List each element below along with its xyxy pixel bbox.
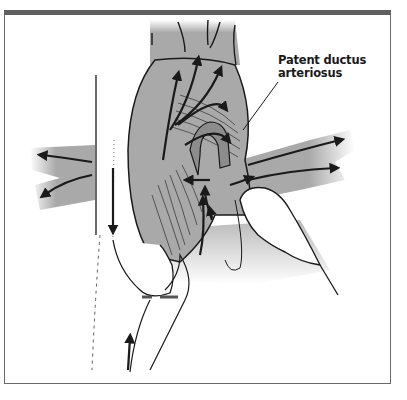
- ivc-outline-right: [130, 300, 150, 372]
- pda-diagram: Patent ductus arteriosus: [0, 0, 407, 400]
- cropped-caption: [190, 392, 390, 400]
- ivc-outline: [92, 235, 100, 370]
- pda-label-line2: arteriosus: [278, 67, 366, 80]
- pda-label: Patent ductus arteriosus: [278, 54, 366, 80]
- label-leader: [243, 82, 278, 130]
